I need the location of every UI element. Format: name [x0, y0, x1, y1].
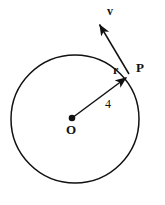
point-p-label: P — [136, 61, 144, 74]
circular-motion-diagram: v r P O 4 — [0, 0, 165, 205]
velocity-vector-label: v — [107, 5, 113, 17]
radius-vector-label: r — [113, 64, 118, 76]
diagram-canvas — [0, 0, 165, 205]
point-o-label: O — [66, 123, 76, 136]
radius-vector-line — [72, 78, 127, 119]
center-point-dot — [69, 115, 76, 122]
radius-length-label: 4 — [105, 98, 111, 110]
